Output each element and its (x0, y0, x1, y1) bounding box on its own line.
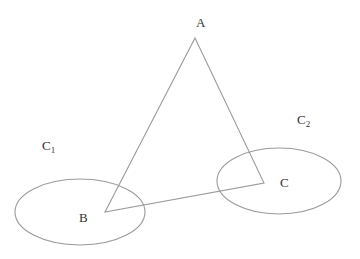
ellipse-label-c1-main: C (42, 138, 51, 153)
ellipse-label-c2-subscript: 2 (306, 119, 311, 129)
ellipse-label-c1: C1 (42, 138, 55, 155)
ellipse-label-c2: C2 (297, 112, 310, 129)
ellipse-label-c1-subscript: 1 (51, 145, 56, 155)
vertex-label-b: B (79, 210, 88, 225)
ellipse-c2 (217, 148, 341, 214)
vertex-label-a: A (196, 15, 206, 30)
ellipse-label-c2-main: C (297, 112, 306, 127)
diagram-canvas: A B C C1 C2 (0, 0, 360, 259)
triangle-abc (105, 38, 264, 212)
vertex-label-c: C (280, 175, 289, 190)
